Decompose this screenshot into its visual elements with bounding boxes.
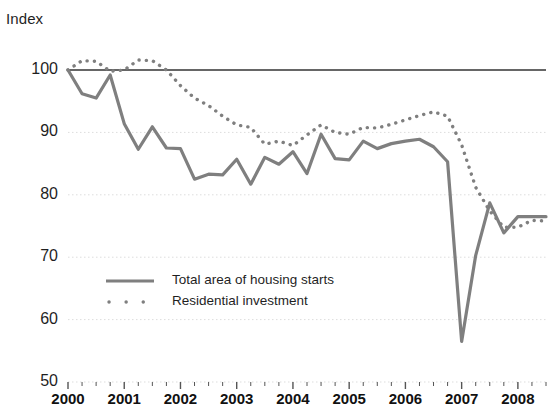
series-group bbox=[68, 60, 546, 341]
line-chart: Index 100 90 80 70 60 50 2000 2001 2002 … bbox=[0, 0, 553, 413]
legend-swatches-group bbox=[106, 281, 154, 302]
plot-area bbox=[0, 0, 553, 413]
x-axis-ticks-group bbox=[68, 382, 546, 389]
series-line-1 bbox=[68, 60, 546, 227]
gridlines-group bbox=[68, 70, 546, 382]
series-line-0 bbox=[68, 70, 546, 341]
